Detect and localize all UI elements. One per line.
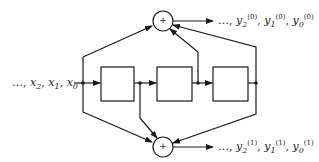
input-sequence-label: …, x2, x1, x0 <box>12 77 78 91</box>
adder-bottom-symbol: + <box>153 142 173 151</box>
adder-top-symbol: + <box>153 16 173 25</box>
output-0-label: …, y2(0), y1(0), y0(0) <box>218 14 314 29</box>
junction-dot <box>81 81 85 85</box>
delay-box-1 <box>101 67 134 101</box>
tap-left-to-top <box>83 26 152 57</box>
delay-box-2 <box>157 67 192 101</box>
tap-left-to-bottom <box>83 112 152 142</box>
delay-box-3 <box>213 67 248 101</box>
tap-140-to-bottom <box>140 83 157 138</box>
output-1-label: …, y2(1), y1(1), y0(1) <box>218 140 314 155</box>
